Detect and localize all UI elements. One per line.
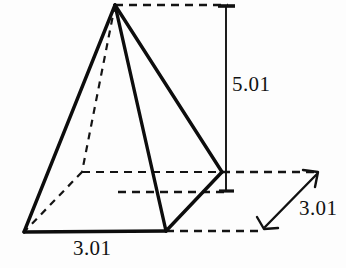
extension-lines-group: [115, 5, 315, 231]
base-depth-dimension-label: 3.01: [299, 198, 337, 219]
solid-edges-group: [24, 5, 222, 232]
pyramid-drawing: [0, 0, 346, 268]
edge-apex-to-back-right: [115, 5, 222, 172]
height-dimension-group: [218, 6, 235, 191]
edge-apex-to-front-left: [24, 5, 115, 232]
base-width-dimension-label: 3.01: [73, 238, 111, 259]
edge-apex-to-front-right: [115, 5, 166, 231]
edge-front-right-to-back-right: [166, 172, 222, 231]
pyramid-figure: 5.01 3.01 3.01: [0, 0, 346, 268]
height-dimension-label: 5.01: [232, 74, 270, 95]
hidden-edge-back-left-to-front-left: [24, 172, 82, 232]
edge-front-left-to-front-right: [24, 231, 166, 232]
hidden-edge-apex-to-back-left: [82, 5, 115, 172]
